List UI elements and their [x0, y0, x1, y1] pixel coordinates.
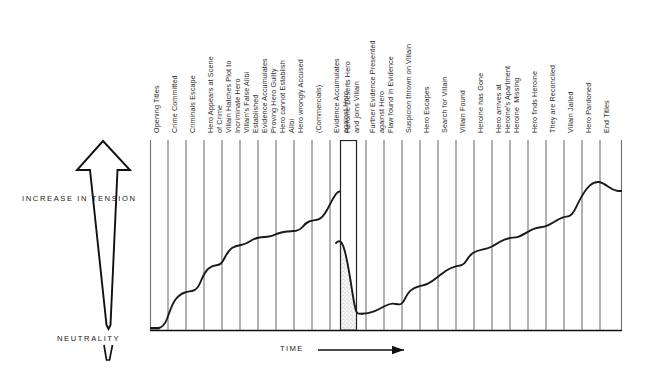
- event-label: Incriminate Hero: [234, 78, 242, 133]
- event-label: against Hero: [378, 91, 386, 133]
- event-label: Evidence Accumulates: [261, 58, 269, 133]
- x-axis-label: TIME: [280, 344, 304, 353]
- event-label: Villain Found: [459, 90, 467, 133]
- event-label: Heroine has Gone: [477, 73, 485, 133]
- event-label: Hero finds Heroine: [531, 71, 539, 133]
- time-arrow-icon: [318, 346, 404, 354]
- event-label: Criminals Escape: [189, 75, 197, 133]
- event-label: Villain Jailed: [567, 91, 575, 133]
- gridlines: [168, 140, 600, 330]
- event-label: Evidence Accumulates: [333, 58, 341, 133]
- event-label: Further Evidence Presented: [369, 40, 377, 133]
- event-label: Hero Appears at Scene: [207, 56, 215, 133]
- event-label: End Titles: [603, 100, 611, 133]
- event-label: Hero cannot Establish: [279, 60, 287, 133]
- event-label: Heroine Missing: [513, 78, 521, 133]
- event-label: Opening Titles: [153, 85, 161, 133]
- event-label: Hero arrives at: [495, 84, 503, 133]
- event-label: They are Reconciled: [549, 65, 557, 133]
- event-label: Search for Villain: [441, 77, 449, 133]
- event-label: Hero Escapes: [423, 86, 431, 133]
- event-label: Villain's False Alibi: [243, 72, 251, 133]
- event-label: Heroine's Apartment: [504, 66, 512, 133]
- tension-curve: [150, 182, 622, 329]
- event-label: Proving Hero Guilty: [270, 68, 278, 133]
- event-label: Heroine Deserts Hero: [344, 61, 352, 133]
- event-label: and joins Villain: [353, 81, 361, 133]
- dramatic-tension-chart: [0, 0, 652, 379]
- y-axis-bottom-label: NEUTRALITY: [57, 334, 120, 343]
- event-label: Established: [252, 95, 260, 133]
- event-label: Crime Committed: [171, 75, 179, 133]
- event-label: Hero wrongly Accused: [297, 59, 305, 133]
- event-label: Flaw found in Evidence: [387, 56, 395, 133]
- y-axis-top-label: INCREASE IN TENSION: [22, 194, 137, 203]
- event-label: (Commercials): [315, 85, 323, 133]
- y-axis-down-stub-icon: [104, 345, 113, 360]
- event-label: of Crime: [216, 105, 224, 133]
- event-label: Alibi: [288, 119, 296, 133]
- event-label: Suspicion thrown on Villain: [405, 44, 413, 133]
- y-axis-arrow-icon: [77, 141, 130, 329]
- event-label: Hero Pardoned: [585, 83, 593, 133]
- event-label: Villain Hatches Plot to: [225, 60, 233, 133]
- plot-frame: [150, 140, 622, 331]
